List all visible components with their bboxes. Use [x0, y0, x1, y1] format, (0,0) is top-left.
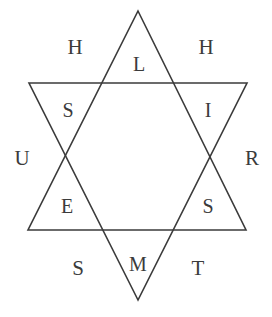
inner-letter-upper-right: I	[205, 100, 212, 120]
outer-letter-bottom-right: T	[192, 258, 205, 279]
inner-letter-lower-left: E	[61, 196, 73, 216]
inner-letter-upper-left: S	[62, 100, 73, 120]
hexagram-puzzle-figure: L I S M E S H H R T S U	[0, 0, 272, 317]
outer-letter-bottom-left: S	[72, 258, 84, 279]
inner-letter-top: L	[133, 54, 145, 74]
inner-letter-bottom: M	[129, 254, 147, 274]
outer-letter-left: U	[14, 148, 29, 169]
outer-letter-top-left: H	[67, 37, 82, 58]
outer-letter-top-right: H	[198, 37, 213, 58]
inner-letter-lower-right: S	[202, 196, 213, 216]
outer-letter-right: R	[245, 148, 259, 169]
